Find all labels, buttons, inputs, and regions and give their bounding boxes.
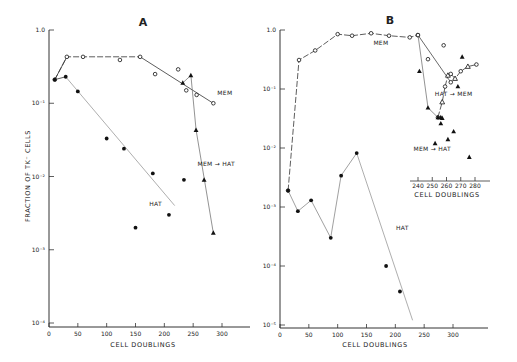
filled-triangle-marker	[188, 73, 193, 77]
filled-triangle-marker	[438, 121, 443, 125]
open-circle-marker	[118, 58, 122, 62]
inset-x-tick-label: 240	[412, 182, 424, 189]
filled-circle-marker	[182, 178, 186, 182]
series-line	[418, 35, 438, 117]
filled-triangle-marker	[460, 54, 465, 58]
open-circle-marker	[297, 58, 301, 62]
open-circle-marker	[313, 49, 317, 53]
y-tick-label: 1.0	[266, 26, 276, 33]
x-tick-label: 0	[278, 331, 282, 338]
annotation-label: MEM	[373, 39, 388, 46]
open-triangle-marker	[440, 99, 445, 103]
filled-circle-marker	[53, 78, 57, 82]
y-tick-label: 10⁻²	[32, 173, 46, 180]
inset-ticks: 240250260270280	[412, 177, 481, 189]
panel-a-data: MEMHATMEM → HAT	[53, 55, 235, 235]
filled-circle-marker	[122, 147, 126, 151]
open-circle-marker	[65, 55, 69, 59]
x-tick-label: 100	[332, 331, 344, 338]
x-tick-label: 50	[305, 331, 313, 338]
y-tick-label: 10⁻¹	[263, 85, 277, 92]
y-tick-label: 10⁻⁴	[32, 319, 46, 326]
series-line	[66, 77, 175, 206]
annotation-label: MEM → HAT	[197, 160, 235, 167]
open-circle-marker	[138, 55, 142, 59]
open-circle-marker	[350, 34, 354, 38]
annotation-label: MEM	[217, 89, 232, 96]
series-line	[288, 153, 357, 238]
open-circle-marker	[212, 101, 216, 105]
filled-triangle-marker	[202, 177, 207, 181]
filled-circle-marker	[76, 90, 80, 94]
open-circle-marker	[449, 80, 453, 84]
open-circle-marker	[449, 72, 453, 76]
open-circle-marker	[387, 34, 391, 38]
filled-circle-marker	[105, 137, 109, 141]
filled-triangle-marker	[426, 105, 431, 109]
filled-triangle-marker	[211, 230, 216, 234]
open-circle-marker	[336, 32, 340, 36]
panel-a-x-axis-label: CELL DOUBLINGS	[110, 341, 175, 349]
filled-triangle-marker	[194, 127, 199, 131]
x-tick-label: 300	[447, 331, 459, 338]
filled-circle-marker	[64, 75, 68, 79]
filled-circle-marker	[339, 174, 343, 178]
filled-circle-marker	[398, 290, 402, 294]
filled-circle-marker	[355, 151, 359, 155]
open-circle-marker	[81, 55, 85, 59]
open-circle-marker	[426, 57, 430, 61]
filled-circle-marker	[329, 236, 333, 240]
filled-triangle-marker	[417, 69, 422, 73]
panel-b-title: B	[386, 14, 394, 27]
open-circle-marker	[459, 69, 463, 73]
open-circle-marker	[153, 72, 157, 76]
annotation-label: HAT → MEM	[435, 90, 473, 97]
x-tick-label: 200	[159, 330, 171, 337]
filled-triangle-marker	[446, 137, 451, 141]
open-circle-marker	[369, 31, 373, 35]
panel-b-data: MEMHAT	[286, 31, 419, 320]
series-line	[357, 153, 413, 320]
open-circle-marker	[184, 89, 188, 93]
x-tick-label: 150	[130, 330, 142, 337]
series-line	[55, 57, 140, 80]
x-tick-label: 0	[47, 330, 51, 337]
x-tick-label: 200	[390, 331, 402, 338]
open-circle-marker	[442, 44, 446, 48]
y-tick-label: 10⁻⁵	[263, 321, 277, 328]
open-circle-marker	[195, 93, 199, 97]
y-tick-label: 10⁻³	[32, 246, 46, 253]
y-tick-label: 10⁻³	[263, 203, 277, 210]
annotation-label: MEM → HAT	[413, 145, 451, 152]
series-line	[183, 75, 214, 233]
filled-triangle-marker	[467, 155, 472, 159]
panel-a: A FRACTION OF TK⁻ CELLS CELL DOUBLINGS 0…	[24, 16, 250, 349]
open-circle-marker	[408, 36, 412, 40]
chart-canvas: A FRACTION OF TK⁻ CELLS CELL DOUBLINGS 0…	[0, 0, 517, 362]
series-line	[418, 35, 451, 82]
x-tick-label: 250	[418, 331, 430, 338]
y-tick-label: 10⁻²	[263, 144, 277, 151]
series-line	[140, 57, 213, 104]
filled-triangle-marker	[456, 84, 461, 88]
x-tick-label: 150	[361, 331, 373, 338]
open-circle-marker	[176, 68, 180, 72]
filled-circle-marker	[167, 213, 171, 217]
inset-x-tick-label: 280	[469, 182, 481, 189]
inset-x-tick-label: 250	[427, 182, 439, 189]
filled-circle-marker	[309, 198, 313, 202]
panel-a-ticks: 0501001502002503001.010⁻¹10⁻²10⁻³10⁻⁴	[32, 26, 228, 337]
y-tick-label: 10⁻⁴	[263, 262, 277, 269]
x-tick-label: 300	[216, 330, 228, 337]
filled-circle-marker	[151, 172, 155, 176]
y-tick-label: 1.0	[35, 26, 45, 33]
x-tick-label: 100	[101, 330, 113, 337]
inset-data: HAT → MEMMEM → HAT	[413, 33, 478, 159]
filled-triangle-marker	[451, 129, 456, 133]
filled-circle-marker	[296, 209, 300, 213]
panel-a-title: A	[139, 16, 148, 29]
open-circle-marker	[416, 33, 420, 37]
y-tick-label: 10⁻¹	[32, 99, 46, 106]
open-circle-marker	[475, 63, 479, 67]
figure: A FRACTION OF TK⁻ CELLS CELL DOUBLINGS 0…	[0, 0, 517, 362]
